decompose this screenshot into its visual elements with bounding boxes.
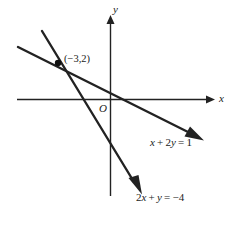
y-axis bbox=[107, 15, 115, 196]
eq1-rhs: 1 bbox=[187, 136, 193, 148]
x-axis-label: x bbox=[219, 93, 224, 104]
equation-label-line-steep: 2x + y = −4 bbox=[136, 192, 184, 203]
origin-label: O bbox=[99, 103, 107, 114]
eq1-term-x: x bbox=[150, 136, 155, 148]
coordinate-plane-figure: y x O (−3,2) x + 2y = 1 2x + y = −4 bbox=[0, 0, 238, 234]
y-axis-arrowhead-icon bbox=[107, 15, 115, 24]
eq2-rhs: −4 bbox=[173, 191, 185, 203]
point-label-close: ) bbox=[87, 53, 91, 64]
eq1-operator: + bbox=[157, 136, 163, 148]
intersection-point-label: (−3,2) bbox=[64, 54, 90, 65]
line-steep bbox=[42, 31, 142, 195]
y-axis-label: y bbox=[113, 4, 118, 15]
eq1-term-y: y bbox=[171, 136, 176, 148]
eq2-equals: = bbox=[164, 191, 170, 203]
point-label-x: −3 bbox=[68, 53, 79, 64]
eq2-operator: + bbox=[149, 191, 155, 203]
equation-label-line-shallow: x + 2y = 1 bbox=[150, 137, 192, 148]
intersection-point-marker bbox=[55, 60, 61, 66]
x-axis-arrowhead-icon bbox=[206, 96, 215, 104]
figure-canvas bbox=[0, 0, 238, 234]
line-shallow-segment bbox=[18, 47, 192, 134]
eq2-term-y: y bbox=[157, 191, 162, 203]
eq1-equals: = bbox=[178, 136, 184, 148]
eq2-term-x: x bbox=[142, 191, 147, 203]
